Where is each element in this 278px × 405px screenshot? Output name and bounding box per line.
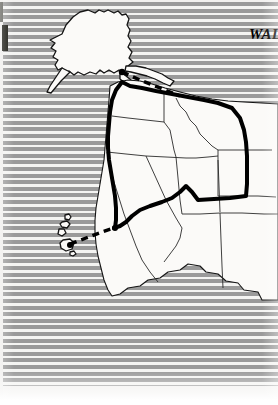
left-edge-dark-mark <box>2 25 8 51</box>
poster-title: THE WALK FOR T <box>150 4 278 42</box>
title-line-1: THE <box>150 4 278 22</box>
route-node-mainland <box>112 225 118 231</box>
left-edge-strip <box>0 0 3 405</box>
region-hawaii <box>58 214 76 256</box>
map-artwork: .land { fill:#fbfaf8; stroke:#141414; st… <box>0 0 278 405</box>
route-node-alaska <box>119 69 125 75</box>
left-edge-gray-mark <box>0 2 3 22</box>
route-node-hawaii <box>67 242 73 248</box>
scanned-page: .land { fill:#fbfaf8; stroke:#141414; st… <box>0 0 278 405</box>
title-line-2: WALK FOR T <box>150 27 278 42</box>
